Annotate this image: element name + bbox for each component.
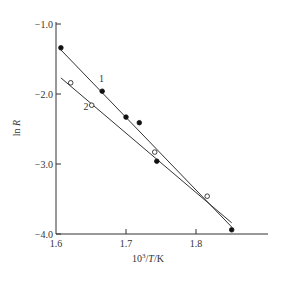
x-axis-title: 103/T/K [132,252,165,264]
x-tick-label: 1.6 [50,238,63,249]
series-label: 1 [99,73,104,84]
open-point [152,150,157,155]
y-axis-title: ln R [11,120,22,136]
filled-point [229,228,234,233]
chart: −1.0−2.0−3.0−4.01.61.71.8 12 103/T/K ln … [0,0,284,283]
x-tick-label: 1.8 [190,238,203,249]
fit-lines [61,50,232,227]
series-label: 2 [84,101,89,112]
plot-area: −1.0−2.0−3.0−4.01.61.71.8 12 103/T/K ln … [11,19,268,265]
filled-point [59,46,64,51]
open-point [205,194,210,199]
y-tick-label: −1.0 [35,19,53,30]
axis-ticks: −1.0−2.0−3.0−4.01.61.71.8 [35,19,202,250]
x-tick-label: 1.7 [120,238,133,249]
filled-point [155,159,160,164]
y-tick-label: −2.0 [35,89,53,100]
filled-point [137,120,142,125]
open-point [89,103,94,108]
open-point [68,81,73,86]
filled-point [100,89,105,94]
y-tick-label: −3.0 [35,159,53,170]
fit-line-2 [61,78,232,223]
filled-point [124,115,129,120]
